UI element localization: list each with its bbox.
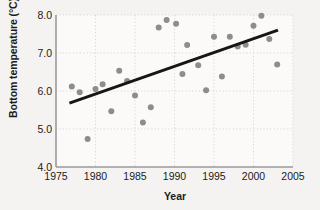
data-point <box>258 13 264 19</box>
x-tick-label: 2005 <box>273 170 313 182</box>
data-point <box>203 87 209 93</box>
data-point <box>164 17 170 23</box>
data-point <box>156 25 162 31</box>
x-tick-label: 1975 <box>36 170 76 182</box>
data-point <box>179 71 185 77</box>
x-axis-tick-labels: 1975198019851990199520002005 <box>0 170 320 186</box>
x-tick-label: 1995 <box>194 170 234 182</box>
x-tick-label: 1990 <box>155 170 195 182</box>
chart-figure: Bottom temperature (°C) 4.05.06.07.08.0 … <box>0 0 320 210</box>
data-point <box>116 68 122 74</box>
data-point <box>108 108 114 114</box>
data-point <box>173 21 179 27</box>
x-tick-label: 2000 <box>234 170 274 182</box>
data-point <box>100 81 106 87</box>
data-point <box>266 36 272 42</box>
data-point <box>77 89 83 95</box>
data-point <box>184 42 190 48</box>
x-axis-label: Year <box>55 190 295 202</box>
data-point <box>211 34 217 40</box>
data-point <box>274 61 280 67</box>
data-point <box>148 104 154 110</box>
data-point <box>140 120 146 126</box>
data-point <box>219 74 225 80</box>
data-point <box>69 83 75 89</box>
data-point <box>251 23 257 29</box>
data-point <box>85 136 91 142</box>
data-point <box>227 34 233 40</box>
x-tick-label: 1985 <box>115 170 155 182</box>
x-tick-label: 1980 <box>76 170 116 182</box>
data-point <box>195 62 201 68</box>
data-point <box>132 93 138 99</box>
data-point <box>93 86 99 92</box>
